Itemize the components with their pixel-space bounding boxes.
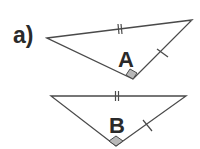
triangle-a-label: A	[118, 47, 134, 72]
triangle-b-label: B	[109, 113, 125, 138]
part-label: a)	[13, 22, 33, 48]
triangle-b: B	[51, 91, 186, 146]
congruent-triangles-diagram: a) A B	[0, 0, 200, 149]
triangle-a: A	[47, 20, 192, 79]
